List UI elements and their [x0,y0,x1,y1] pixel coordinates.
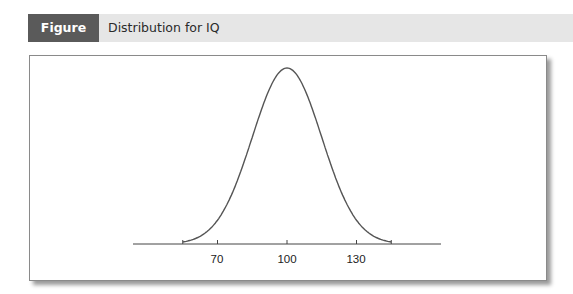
bell-curve-chart: 70 100 130 [0,0,573,294]
tick-label-100: 100 [277,253,296,265]
tick-label-70: 70 [211,253,224,265]
tick-label-130: 130 [346,253,365,265]
density-curve [183,68,391,242]
x-axis-ticks [183,240,392,244]
